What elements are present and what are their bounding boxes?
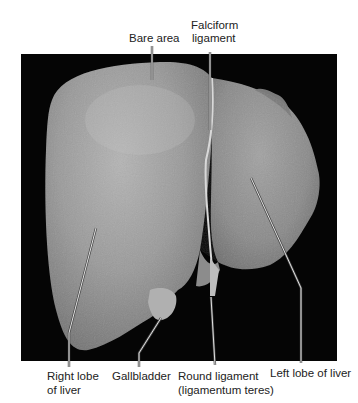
liver-illustration	[0, 0, 358, 403]
liver-figure: Bare area Falciform ligament Right lobe …	[0, 0, 358, 403]
label-bare-area: Bare area	[129, 32, 180, 45]
label-left-lobe: Left lobe of liver	[270, 367, 351, 380]
label-right-lobe-line1: Right lobe	[47, 370, 99, 383]
label-right-lobe-line2: of liver	[47, 384, 81, 397]
label-falciform-line1: Falciform	[191, 19, 238, 32]
label-gallbladder: Gallbladder	[112, 370, 171, 383]
label-round-ligament-line1: Round ligament	[178, 370, 259, 383]
label-falciform-line2: ligament	[192, 32, 235, 45]
label-round-ligament-line2: (ligamentum teres)	[178, 384, 274, 397]
